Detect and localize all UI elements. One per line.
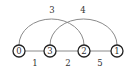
node-1: 1 [111, 45, 123, 57]
graph-diagram: 0 3 2 1 1 2 5 3 4 [0, 0, 133, 71]
node-0-label: 0 [16, 46, 21, 56]
node-2: 2 [78, 45, 90, 57]
edge-3-2-weight: 2 [65, 58, 70, 68]
node-2-label: 2 [81, 46, 86, 56]
node-3: 3 [44, 45, 56, 57]
graph-svg: 0 3 2 1 1 2 5 3 4 [0, 0, 133, 71]
node-1-label: 1 [114, 46, 119, 56]
node-0: 0 [13, 45, 25, 57]
edge-2-1-weight: 5 [97, 58, 102, 68]
edge-3-1-weight: 4 [80, 5, 85, 15]
node-3-label: 3 [47, 46, 52, 56]
edge-0-3-weight: 1 [32, 58, 37, 68]
edge-0-2-weight: 3 [49, 5, 54, 15]
edge-0-2-arc [19, 19, 84, 45]
